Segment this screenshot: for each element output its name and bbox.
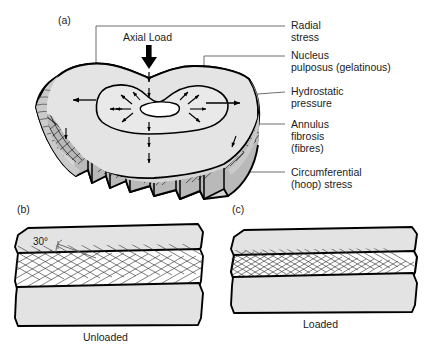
label-radial-stress-line1: Radial [291,19,321,31]
label-nucleus-pulposus-line1: Nucleus [291,49,329,61]
figure-root: (a) Axial Load [0,0,438,350]
label-radial-stress-line2: stress [291,31,319,43]
label-annulus-fibrosis-line1: Annulus [291,118,329,130]
panel-c-lower-vertebra [231,273,417,313]
panel-b: (b) [0,203,232,343]
label-hydrostatic-pressure-line1: Hydrostatic [291,85,344,97]
label-nucleus-pulposus: Nucleus pulposus (gelatinous) [291,49,391,73]
hydrostatic-core-ellipse [140,102,179,117]
panel-b-caption: Unloaded [83,331,128,343]
disc-mechanics-figure: (a) Axial Load [0,0,438,350]
panel-c-letter: (c) [232,203,244,215]
label-annulus-fibrosis: Annulus fibrosis (fibres) [291,118,329,154]
label-radial-stress: Radial stress [291,19,321,43]
panel-c: (c) [200,203,417,330]
panel-c-caption: Loaded [303,318,338,330]
label-circumferential-stress: Circumferential (hoop) stress [291,166,362,190]
panel-b-lower-vertebra [15,283,203,326]
axial-load-arrow [141,45,157,69]
label-circumferential-stress-line2: (hoop) stress [291,178,352,190]
panel-a-letter: (a) [58,14,71,26]
panel-a: (a) Axial Load [30,14,391,204]
axial-load-label: Axial Load [123,31,172,43]
label-annulus-fibrosis-line3: (fibres) [291,142,324,154]
label-hydrostatic-pressure-line2: pressure [291,97,332,109]
label-hydrostatic-pressure: Hydrostatic pressure [291,85,344,109]
label-nucleus-pulposus-line2: pulposus (gelatinous) [291,61,391,73]
label-annulus-fibrosis-line2: fibrosis [291,130,324,142]
panel-b-letter: (b) [17,203,30,215]
label-circumferential-stress-line1: Circumferential [291,166,362,178]
panel-b-angle-label: 30° [33,236,48,247]
